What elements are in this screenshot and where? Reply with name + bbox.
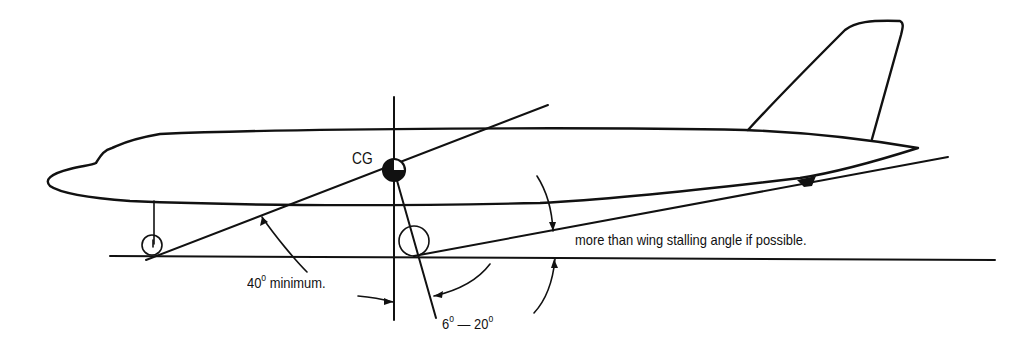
stall-note-text: more than wing stalling angle if possibl…	[575, 231, 807, 248]
angle-6-20-label: 6o — 20o	[442, 314, 493, 332]
angle-40-label: 40o minimum.	[247, 273, 326, 291]
arrowhead-stall-lower	[551, 259, 558, 268]
nose-wheel	[142, 235, 162, 255]
arrowhead-vertical	[384, 298, 393, 305]
angle-40-value: 40	[247, 274, 261, 291]
degree-symbol: o	[488, 313, 493, 324]
angle-20-value: 20	[474, 315, 488, 332]
stall-note-label: more than wing stalling angle if possibl…	[575, 231, 807, 248]
arrowhead-6-20	[434, 291, 443, 298]
angle-range-dash: —	[454, 315, 474, 332]
main-gear-angle-line	[394, 170, 436, 318]
degree-symbol: o	[261, 272, 266, 283]
angle-arc-6-20	[434, 264, 490, 296]
vertical-tail-fin	[748, 21, 903, 139]
ground-line	[110, 256, 995, 260]
tip-back-line	[146, 105, 548, 260]
cg-text: CG	[352, 150, 373, 167]
angle-arc-40	[262, 217, 307, 272]
cg-symbol	[383, 159, 405, 181]
angle-40-suffix: minimum.	[266, 274, 325, 291]
cg-label: CG	[352, 150, 373, 168]
fuselage-outline	[48, 128, 918, 205]
degree-symbol: o	[449, 313, 454, 324]
aircraft-diagram	[0, 0, 1028, 351]
